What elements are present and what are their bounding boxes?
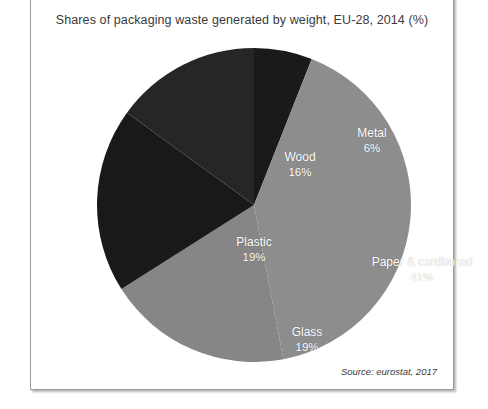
pie-slice-label: Plastic19% [236, 234, 271, 266]
pie-slice-label-value: 19% [292, 340, 323, 356]
pie-slice-label: Glass19% [292, 324, 323, 356]
pie-slice-label-name: Metal [357, 126, 386, 140]
pie-slice-label-name: Paper & cardborad [372, 255, 473, 269]
pie-svg [95, 48, 413, 362]
figure-frame: Shares of packaging waste generated by w… [30, 0, 454, 390]
pie-slice-label: Metal6% [357, 125, 386, 157]
pie-slice-label-value: 6% [357, 141, 386, 157]
pie-slice-label-value: 41% [372, 270, 473, 286]
pie-slice-label-value: 19% [236, 250, 271, 266]
source-note: Source: eurostat, 2017 [341, 366, 437, 377]
pie-slice-label: Wood16% [284, 149, 315, 181]
pie-chart: Metal6%Paper & cardborad41%Glass19%Plast… [95, 48, 413, 362]
chart-title: Shares of packaging waste generated by w… [31, 13, 453, 27]
pie-slice-label-name: Plastic [236, 235, 271, 249]
pie-slice-label-name: Wood [284, 150, 315, 164]
pie-slice-label-name: Glass [292, 325, 323, 339]
pie-slice-label-value: 16% [284, 165, 315, 181]
pie-slice-group [97, 48, 411, 362]
pie-slice-label: Paper & cardborad41% [372, 254, 473, 286]
